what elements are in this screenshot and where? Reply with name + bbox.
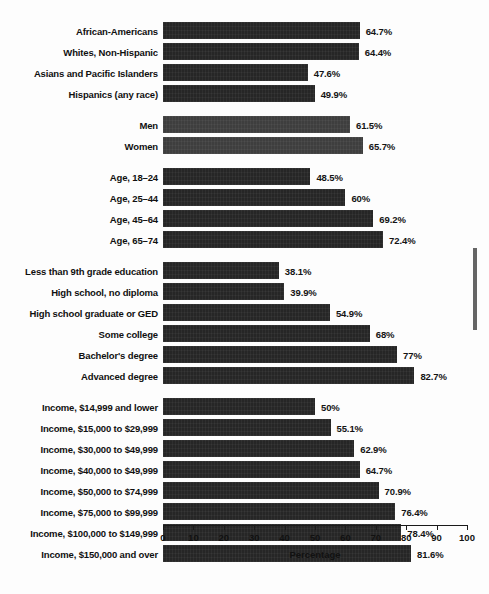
bar-row: Income, $15,000 to $29,99955.1% [0, 419, 489, 436]
bar [163, 440, 354, 457]
bar [163, 304, 330, 321]
x-tick-label: 60 [340, 532, 351, 543]
bar-row: Advanced degree82.7% [0, 367, 489, 384]
x-tick-label: 70 [371, 532, 382, 543]
bar-row: Less than 9th grade education38.1% [0, 262, 489, 279]
bar [163, 262, 279, 279]
bar-row: Age, 25–4460% [0, 189, 489, 206]
scan-edge-artifact [473, 248, 477, 330]
bar-value-label: 65.7% [369, 140, 395, 151]
x-tick-label: 20 [219, 532, 230, 543]
bar-row: African-Americans64.7% [0, 22, 489, 39]
bar-group-gender: Men61.5%Women65.7% [0, 116, 489, 154]
bar-row: Age, 65–7472.4% [0, 231, 489, 248]
bar-category-label: Age, 25–44 [0, 192, 158, 203]
x-tick [406, 525, 407, 530]
bar-category-label: Bachelor's degree [0, 349, 158, 360]
x-tick-label: 40 [279, 532, 290, 543]
bar-value-label: 68% [376, 328, 395, 339]
bar-row: Income, $50,000 to $74,99970.9% [0, 482, 489, 499]
bar-category-label: Asians and Pacific Islanders [0, 67, 158, 78]
bar-row: High school, no diploma39.9% [0, 283, 489, 300]
bar-value-label: 62.9% [360, 443, 386, 454]
bar [163, 116, 350, 133]
x-tick-label: 100 [459, 532, 475, 543]
bar-category-label: Age, 18–24 [0, 171, 158, 182]
x-tick [345, 525, 346, 530]
bar [163, 43, 359, 60]
bar-row: Age, 18–2448.5% [0, 168, 489, 185]
bar-chart: African-Americans64.7%Whites, Non-Hispan… [0, 0, 489, 594]
bar [163, 283, 284, 300]
bar-row: Bachelor's degree77% [0, 346, 489, 363]
bar [163, 503, 395, 520]
x-axis-title: Percentage [163, 549, 467, 560]
bar-category-label: Men [0, 119, 158, 130]
bar-value-label: 55.1% [337, 422, 363, 433]
bar-category-label: Women [0, 140, 158, 151]
bar-category-label: Some college [0, 328, 158, 339]
bar-row: High school graduate or GED54.9% [0, 304, 489, 321]
bar [163, 346, 397, 363]
x-tick [224, 525, 225, 530]
x-tick [254, 525, 255, 530]
bar-category-label: High school, no diploma [0, 286, 158, 297]
bar-category-label: Income, $15,000 to $29,999 [0, 422, 158, 433]
bar [163, 461, 360, 478]
bar-category-label: Whites, Non-Hispanic [0, 46, 158, 57]
bar-row: Asians and Pacific Islanders47.6% [0, 64, 489, 81]
bar-row: Men61.5% [0, 116, 489, 133]
x-tick-label: 90 [431, 532, 442, 543]
bar-row: Some college68% [0, 325, 489, 342]
bar [163, 85, 315, 102]
x-tick-label: 80 [401, 532, 412, 543]
bar-value-label: 38.1% [285, 265, 311, 276]
bar-value-label: 76.4% [401, 506, 427, 517]
bar-category-label: Income, $75,000 to $99,999 [0, 506, 158, 517]
bar-group-education: Less than 9th grade education38.1%High s… [0, 262, 489, 384]
x-tick [437, 525, 438, 530]
x-tick [163, 525, 164, 530]
bar-group-age: Age, 18–2448.5%Age, 25–4460%Age, 45–6469… [0, 168, 489, 248]
bar-value-label: 61.5% [356, 119, 382, 130]
bar-rows-container: African-Americans64.7%Whites, Non-Hispan… [0, 22, 489, 576]
bar [163, 419, 331, 436]
x-tick [376, 525, 377, 530]
x-tick-label: 30 [249, 532, 260, 543]
bar-category-label: Age, 45–64 [0, 213, 158, 224]
x-tick [467, 525, 468, 530]
bar-value-label: 82.7% [420, 370, 446, 381]
bar-category-label: Income, $14,999 and lower [0, 401, 158, 412]
bar-value-label: 50% [321, 401, 340, 412]
bar-row: Income, $75,000 to $99,99976.4% [0, 503, 489, 520]
bar-category-label: Income, $50,000 to $74,999 [0, 485, 158, 496]
bar [163, 367, 414, 384]
bar [163, 210, 373, 227]
bar-row: Whites, Non-Hispanic64.4% [0, 43, 489, 60]
bar-value-label: 77% [403, 349, 422, 360]
bar [163, 137, 363, 154]
bar-group-race-ethnicity: African-Americans64.7%Whites, Non-Hispan… [0, 22, 489, 102]
bar-value-label: 49.9% [321, 88, 347, 99]
bar [163, 482, 379, 499]
bar-row: Age, 45–6469.2% [0, 210, 489, 227]
bar-category-label: Hispanics (any race) [0, 88, 158, 99]
bar [163, 64, 308, 81]
bar-value-label: 70.9% [385, 485, 411, 496]
bar-row: Income, $14,999 and lower50% [0, 398, 489, 415]
bar-category-label: Income, $40,000 to $49,999 [0, 464, 158, 475]
x-tick [193, 525, 194, 530]
bar-category-label: Income, $30,000 to $49,999 [0, 443, 158, 454]
bar-value-label: 72.4% [389, 234, 415, 245]
x-tick [285, 525, 286, 530]
bar-value-label: 54.9% [336, 307, 362, 318]
bar-category-label: African-Americans [0, 25, 158, 36]
x-tick-label: 10 [188, 532, 199, 543]
bar [163, 189, 345, 206]
bar-value-label: 60% [351, 192, 370, 203]
bar-category-label: High school graduate or GED [0, 307, 158, 318]
bar-category-label: Income, $150,000 and over [0, 548, 158, 559]
bar-value-label: 64.4% [365, 46, 391, 57]
bar-row: Hispanics (any race)49.9% [0, 85, 489, 102]
bar-category-label: Advanced degree [0, 370, 158, 381]
